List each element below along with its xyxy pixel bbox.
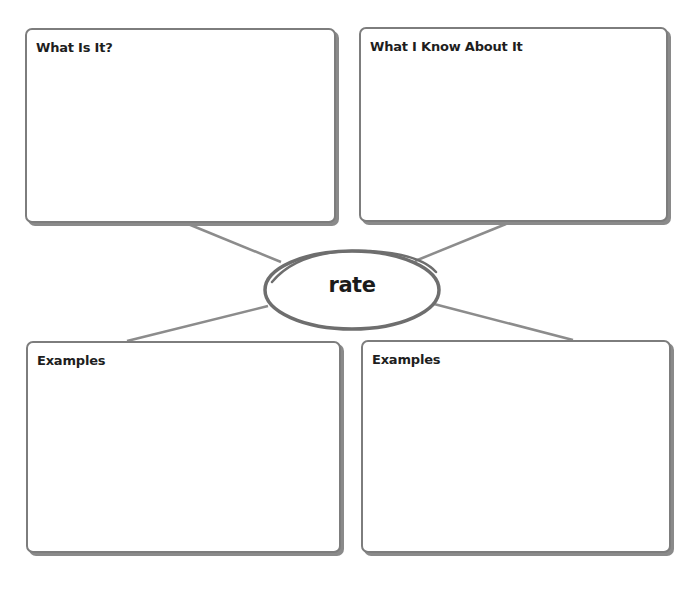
concept-map: What Is It? What I Know About It Example… (0, 0, 692, 593)
center-word: rate (302, 273, 402, 297)
